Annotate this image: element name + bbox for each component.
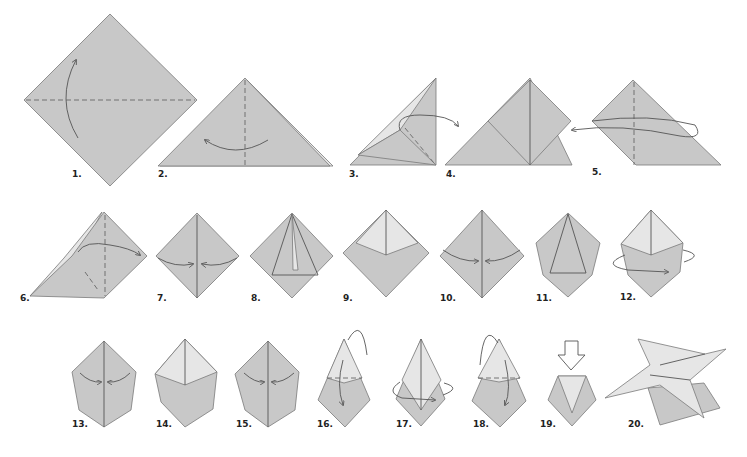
step-13: 13. [72, 341, 136, 429]
step-20: 20. [605, 339, 726, 429]
step-label: 9. [343, 293, 353, 303]
step-10: 10. [440, 210, 524, 303]
step-7: 7. [156, 213, 239, 303]
step-15: 15. [235, 341, 299, 429]
step-16: 16. [317, 330, 370, 429]
step-label: 13. [72, 419, 88, 429]
step-label: 19. [540, 419, 556, 429]
step-14: 14. [155, 339, 217, 429]
step-11: 11. [536, 213, 600, 303]
step-label: 1. [72, 169, 82, 179]
step-label: 17. [396, 419, 412, 429]
step-19: 19. [540, 341, 596, 429]
step-17: 17. [393, 339, 453, 429]
step-5: 5. [572, 80, 721, 177]
push-arrow-icon [558, 341, 585, 370]
step-label: 3. [349, 169, 359, 179]
step-label: 6. [20, 293, 30, 303]
step-label: 2. [158, 169, 168, 179]
step-label: 11. [536, 293, 552, 303]
step-label: 15. [236, 419, 252, 429]
step-label: 7. [157, 293, 167, 303]
step-8: 8. [250, 213, 333, 303]
step-label: 16. [317, 419, 333, 429]
step-label: 5. [592, 167, 602, 177]
step-label: 12. [620, 292, 636, 302]
step-3: 3. [349, 78, 458, 179]
step-18: 18. [472, 335, 526, 429]
origami-diagram: 1. 2. 3. 4. 5. 6. [0, 0, 747, 457]
step-label: 18. [473, 419, 489, 429]
step-label: 10. [440, 293, 456, 303]
step-12: 12. [613, 210, 694, 302]
step-4: 4. [445, 78, 572, 179]
step-label: 20. [628, 419, 644, 429]
step-label: 14. [156, 419, 172, 429]
step-label: 8. [251, 293, 261, 303]
step-9: 9. [343, 210, 429, 303]
step-label: 4. [446, 169, 456, 179]
step-6: 6. [20, 212, 147, 303]
